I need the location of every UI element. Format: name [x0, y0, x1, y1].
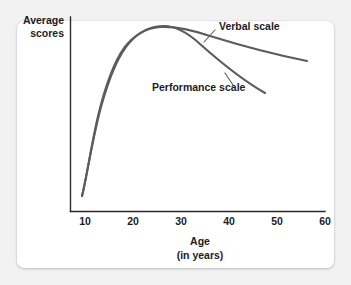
- x-tick-label-30: 30: [175, 215, 187, 227]
- verbal-scale-curve: [82, 27, 307, 196]
- y-axis-title-line2: scores: [30, 27, 64, 39]
- verbal-scale-label: Verbal scale: [219, 20, 280, 32]
- performance-scale-curve: [82, 26, 265, 196]
- x-tick-label-60: 60: [319, 215, 331, 227]
- performance-scale-label: Performance scale: [152, 81, 246, 93]
- x-tick-label-10: 10: [79, 215, 91, 227]
- x-axis-title: Age: [190, 235, 210, 247]
- x-tick-label-50: 50: [271, 215, 283, 227]
- x-tick-label-20: 20: [127, 215, 139, 227]
- line-chart: Verbal scale Performance scale 10 20 30 …: [0, 0, 351, 285]
- x-axis-subtitle: (in years): [177, 249, 224, 261]
- x-tick-label-40: 40: [223, 215, 235, 227]
- y-axis-title-line1: Average: [23, 14, 64, 26]
- figure-root: Verbal scale Performance scale 10 20 30 …: [0, 0, 351, 285]
